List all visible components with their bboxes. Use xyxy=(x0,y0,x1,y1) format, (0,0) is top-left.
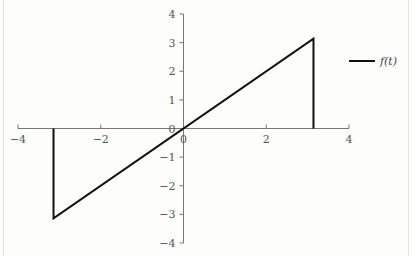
y-tick-label: −2 xyxy=(159,180,175,193)
x-tick-label: 2 xyxy=(263,133,270,146)
y-tick-label: −3 xyxy=(159,208,175,221)
y-tick-label: 1 xyxy=(169,94,176,107)
y-tick-label: 2 xyxy=(169,65,176,78)
y-tick-label: −4 xyxy=(159,237,175,250)
x-tick-label: −4 xyxy=(10,133,26,146)
x-tick-label: −2 xyxy=(93,133,109,146)
x-tick-label: 4 xyxy=(346,133,353,146)
y-tick-label: 4 xyxy=(169,8,176,21)
legend-text: f(t) xyxy=(379,55,397,68)
y-tick-label: 3 xyxy=(169,37,176,50)
x-tick-label: 0 xyxy=(180,133,187,146)
chart-plot: −4−2024−4−3−2−101234f(t) xyxy=(0,0,412,256)
frame-border-right xyxy=(408,0,409,256)
y-tick-label: −1 xyxy=(159,151,175,164)
chart-frame: −4−2024−4−3−2−101234f(t) f(t) xyxy=(0,0,412,256)
frame-border-left xyxy=(3,0,4,256)
